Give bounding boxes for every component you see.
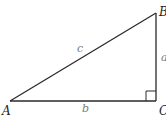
side-label-c: c [77, 42, 83, 55]
right-angle-marker [146, 91, 156, 101]
side-c-hypotenuse [10, 13, 156, 101]
side-label-b: b [82, 102, 89, 115]
vertex-label-c-point: C [159, 104, 166, 118]
vertex-label-b-point: B [158, 5, 166, 19]
side-label-a: a [161, 51, 166, 64]
right-triangle-diagram: A B C c b a [0, 0, 166, 123]
vertex-label-a-point: A [1, 104, 11, 118]
